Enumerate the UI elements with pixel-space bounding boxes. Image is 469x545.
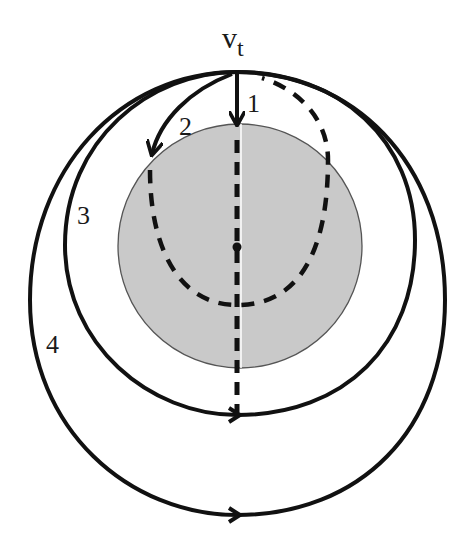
trajectory-label-3: 3 <box>77 201 90 230</box>
trajectory-label-4: 4 <box>46 330 59 359</box>
trajectory-label-2: 2 <box>179 112 192 141</box>
velocity-label: vt <box>222 21 244 61</box>
orbit-diagram: vt 1 2 3 4 <box>0 0 469 545</box>
planet-center-dot <box>233 243 242 252</box>
trajectory-label-1: 1 <box>247 89 260 118</box>
